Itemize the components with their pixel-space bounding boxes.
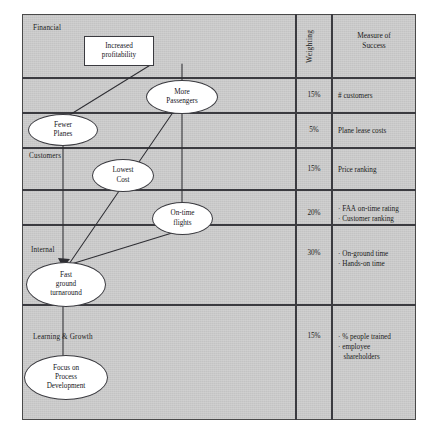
- link-profitability-fewer-planes: [63, 64, 152, 119]
- node-label-focus-on-process-development: Focus onProcessDevelopment: [44, 364, 89, 392]
- perspective-label-financial: Financial: [33, 24, 61, 32]
- weighting-cell-3: 15%: [296, 165, 332, 173]
- node-label-increased-profitability: Increasedprofitability: [99, 42, 139, 60]
- node-label-fewer-planes: FewerPlanes: [51, 121, 76, 139]
- perspective-label-internal: Internal: [31, 246, 55, 254]
- measure-cell-3: Price ranking: [338, 165, 412, 175]
- weighting-cell-4: 20%: [296, 209, 332, 217]
- node-label-fast-ground-turnaround: Fastgroundturnaround: [47, 271, 85, 299]
- link-on-time-fast-turnaround: [68, 233, 172, 265]
- strategy-map-figure: Financial Customers Internal Learning & …: [0, 0, 437, 433]
- node-focus-on-process-development[interactable]: Focus onProcessDevelopment: [24, 355, 108, 400]
- node-on-time-flights[interactable]: On-timeflights: [152, 202, 213, 235]
- node-more-passengers[interactable]: MorePassengers: [146, 80, 218, 114]
- weighting-cell-2: 5%: [296, 126, 332, 134]
- perspective-label-customers: Customers: [29, 152, 61, 160]
- node-lowest-cost[interactable]: LowestCost: [92, 159, 154, 192]
- node-label-lowest-cost: LowestCost: [109, 166, 136, 184]
- column-header-weighting: Weighting: [305, 18, 315, 74]
- node-label-on-time-flights: On-timeflights: [168, 209, 198, 227]
- weighting-cell-1: 15%: [296, 91, 332, 99]
- measure-cell-1: # customers: [338, 91, 412, 101]
- measure-cell-6: · % people trained· employee shareholder…: [338, 332, 416, 363]
- weighting-cell-6: 15%: [296, 332, 332, 340]
- node-fast-ground-turnaround[interactable]: Fastgroundturnaround: [26, 262, 106, 307]
- measure-cell-5: · On-ground time· Hands-on time: [338, 249, 416, 269]
- weighting-cell-5: 30%: [296, 249, 332, 257]
- perspective-label-learning-growth: Learning & Growth: [33, 333, 93, 341]
- node-fewer-planes[interactable]: FewerPlanes: [28, 114, 98, 146]
- measure-cell-2: Plane lease costs: [338, 126, 412, 136]
- node-label-more-passengers: MorePassengers: [163, 88, 201, 106]
- column-header-measure-of-success: Measure ofSuccess: [336, 31, 412, 51]
- node-increased-profitability[interactable]: Increasedprofitability: [84, 36, 154, 66]
- measure-cell-4: · FAA on-time rating· Customer ranking: [338, 204, 416, 224]
